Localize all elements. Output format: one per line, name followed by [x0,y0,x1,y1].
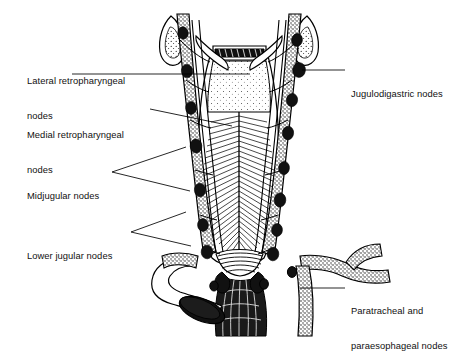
label-lower-jugular-nodes: Lower jugular nodes [27,227,112,273]
label-line: Lower jugular nodes [27,250,112,262]
esophagus [215,272,267,336]
nasopharynx-mucosa [208,61,271,112]
cricopharyngeus [216,250,263,277]
label-midjugular-nodes: Midjugular nodes [27,167,99,213]
label-line: Lateral retropharyngeal [27,75,125,87]
label-line: Midjugular nodes [27,190,99,202]
label-line: Medial retropharyngeal [27,129,124,141]
label-line: paraesophageal nodes [351,340,447,352]
label-line: Jugulodigastric nodes [351,88,443,100]
label-line: Paratracheal and [351,305,447,317]
label-jugulodigastric-nodes: Jugulodigastric nodes [351,65,443,111]
label-paratracheal-paraesophageal-nodes: Paratracheal and paraesophageal nodes [351,282,447,355]
leader-lower-jugular [131,212,191,246]
